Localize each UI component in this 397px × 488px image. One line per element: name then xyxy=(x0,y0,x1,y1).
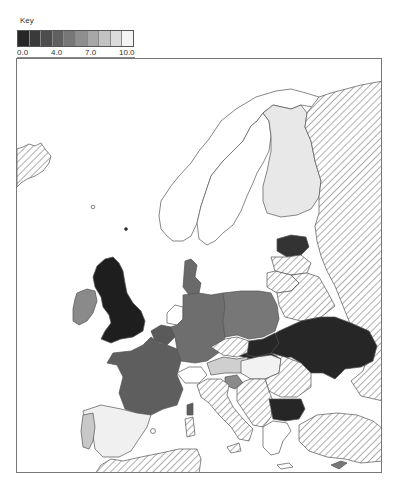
key-cell-5 xyxy=(76,31,88,46)
island-corsica xyxy=(187,403,193,415)
country-iceland xyxy=(17,143,51,187)
key-cell-2 xyxy=(41,31,53,46)
key-cell-9 xyxy=(122,31,133,46)
country-portugal xyxy=(81,413,95,449)
europe-map xyxy=(17,59,382,473)
country-greece xyxy=(263,421,291,455)
country-switzerland xyxy=(177,367,207,383)
key-title: Key xyxy=(20,16,34,25)
country-france xyxy=(107,337,183,415)
country-turkey xyxy=(299,413,382,463)
island-faroe xyxy=(91,205,95,209)
key-cell-0 xyxy=(18,31,30,46)
country-united-kingdom xyxy=(93,257,145,343)
country-ireland xyxy=(73,289,97,325)
island-speck xyxy=(125,228,128,231)
country-estonia xyxy=(277,235,309,257)
island-sicily xyxy=(227,443,241,453)
island-sardinia xyxy=(185,417,195,437)
key-cell-1 xyxy=(30,31,42,46)
key-label-4: 4.0 xyxy=(51,48,62,57)
key-cell-3 xyxy=(53,31,65,46)
country-denmark xyxy=(183,259,201,295)
island-balearic xyxy=(151,429,156,434)
key-cell-8 xyxy=(111,31,123,46)
key-label-10: 10.0 xyxy=(119,48,135,57)
key-color-scale xyxy=(17,30,134,47)
key-label-7: 7.0 xyxy=(85,48,96,57)
country-poland xyxy=(223,291,279,339)
key-cell-6 xyxy=(88,31,100,46)
key-cell-7 xyxy=(99,31,111,46)
country-bulgaria xyxy=(269,399,305,421)
map-frame xyxy=(16,58,382,473)
country-cyprus xyxy=(331,461,347,469)
country-germany xyxy=(171,293,225,363)
key-label-0: 0.0 xyxy=(17,48,28,57)
key-cell-4 xyxy=(64,31,76,46)
island-crete xyxy=(277,463,293,469)
